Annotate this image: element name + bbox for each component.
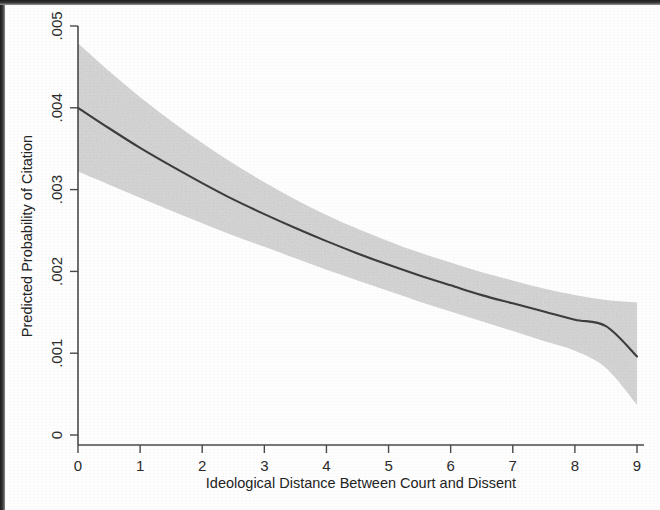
- y-tick-label: .003: [48, 175, 65, 204]
- x-tick-label: 5: [384, 457, 392, 474]
- figure-page: 0.001.002.003.004.005 0123456789 Predict…: [0, 0, 660, 510]
- x-tick-label: 2: [198, 457, 206, 474]
- y-tick-label: .004: [48, 93, 65, 122]
- line-chart: 0.001.002.003.004.005 0123456789 Predict…: [0, 0, 660, 510]
- confidence-band: [78, 43, 637, 405]
- x-tick-label: 7: [509, 457, 517, 474]
- x-axis-ticks: 0123456789: [74, 445, 641, 474]
- y-axis-title: Predicted Probability of Citation: [19, 135, 35, 337]
- x-tick-label: 6: [446, 457, 454, 474]
- confidence-band-group: [78, 43, 637, 405]
- y-tick-label: .005: [48, 11, 65, 40]
- x-axis-title: Ideological Distance Between Court and D…: [206, 475, 516, 491]
- x-tick-label: 9: [633, 457, 641, 474]
- y-tick-label: .001: [48, 339, 65, 368]
- x-tick-label: 1: [136, 457, 144, 474]
- x-tick-label: 3: [260, 457, 268, 474]
- y-tick-label: 0: [48, 431, 65, 439]
- y-axis-ticks: 0.001.002.003.004.005: [48, 11, 78, 439]
- x-tick-label: 0: [74, 457, 82, 474]
- x-tick-label: 4: [322, 457, 330, 474]
- y-tick-label: .002: [48, 257, 65, 286]
- x-tick-label: 8: [571, 457, 579, 474]
